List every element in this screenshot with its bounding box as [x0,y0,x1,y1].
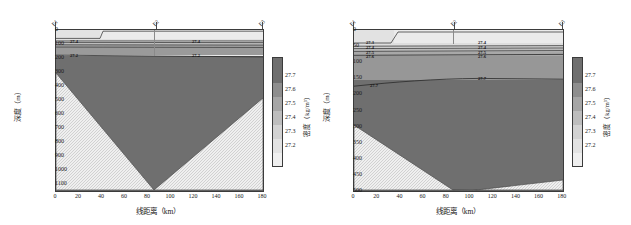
station-line-e2-left [154,30,155,56]
x-tick-label: 0 [352,190,355,199]
cbar-tick-label: 27.5 [581,100,596,106]
cbar-segment [573,153,582,166]
x-tick-label: 40 [396,190,402,199]
x-tick-label: 0 [54,190,57,199]
x-tick-label: 20 [373,190,379,199]
x-tick-label: 100 [166,190,175,199]
y-tick-label: 350 [353,139,356,145]
x-tick-label: 140 [212,190,221,199]
x-tick-label: 60 [121,190,127,199]
seafloor-hatch-right [354,30,563,191]
cbar-segment [273,58,282,83]
x-tick-label: 160 [534,190,543,199]
panel-right: E1 E2 E3 [316,0,631,225]
cbar-segment [573,58,582,83]
y-tick-label: 200 [353,90,356,96]
y-tick-label: 300 [55,68,58,74]
y-tick-label: 700 [55,124,58,130]
y-tick-label: 0 [353,26,356,32]
station-tick-e3 [262,22,263,29]
x-axis-title: 线距离（km） [408,205,508,216]
station-tick-e3 [562,22,563,29]
y-tick-label: 300 [353,123,356,129]
cbar-tick-label: 27.4 [581,114,596,120]
y-tick-label: 600 [55,110,58,116]
contour-label: 27.2 [192,54,200,59]
x-tick-label: 120 [488,190,497,199]
x-tick-label: 20 [75,190,81,199]
y-tick-label: 450 [353,171,356,177]
station-tick-e2 [454,22,455,29]
cbar-tick-label: 27.7 [281,72,296,78]
contour-label: 27.2 [70,54,78,59]
contour-label: 27.4 [192,39,200,44]
y-tick-label: 1000 [55,166,58,172]
y-tick-label: 200 [55,54,58,60]
station-tick-e2 [156,22,157,29]
seafloor-hatch-left [56,30,263,191]
x-tick-label: 160 [235,190,244,199]
contour-label: 27.4 [70,39,78,44]
y-axis-title: 深度（m） [12,82,22,128]
y-tick-label: 500 [55,96,58,102]
plot-area-right: 27.3 27.4 27.5 27.6 27.4 27.4 27.5 27.6 … [353,29,564,192]
panel-left: E1 E2 E3 [0,0,315,225]
station-line-e2-right [453,30,454,44]
density-section-figure: E1 E2 E3 [0,0,631,225]
colorbar-title: 密度（kg/m³） [601,85,611,145]
y-tick-label: 900 [55,152,58,158]
x-tick-label: 60 [420,190,426,199]
x-tick-label: 40 [98,190,104,199]
x-axis-title: 线距离（km） [108,205,208,216]
cbar-tick-label: 27.3 [581,128,596,134]
y-tick-label: 400 [55,82,58,88]
x-tick-label: 100 [465,190,474,199]
cbar-tick-label: 27.7 [581,72,596,78]
y-tick-label: 250 [353,107,356,113]
x-tick-label: 120 [189,190,198,199]
cbar-tick-label: 27.5 [281,100,296,106]
y-tick-label: 1100 [55,180,58,186]
x-tick-label: 140 [511,190,520,199]
y-tick-label: 100 [55,40,58,46]
colorbar-title: 密度（kg/m³） [301,85,311,145]
y-tick-label: 800 [55,138,58,144]
contour-label: 27.6 [478,55,486,60]
cbar-tick-label: 27.6 [581,86,596,92]
y-tick-label: 0 [55,26,58,32]
cbar-tick-label: 27.6 [281,86,296,92]
cbar-tick-label: 27.2 [581,142,596,148]
y-axis-title: 深度（m） [321,82,331,128]
y-tick-label: 150 [353,74,356,80]
contour-label: 27.7 [370,84,378,89]
y-tick-label: 100 [353,58,356,64]
cbar-segment [273,153,282,166]
cbar-tick-label: 27.2 [281,142,296,148]
y-tick-label: 400 [353,155,356,161]
y-tick-label: 50 [353,42,356,48]
x-tick-label: 180 [557,190,566,199]
contour-label: 27.6 [366,55,374,60]
cbar-tick-label: 27.3 [281,128,296,134]
x-tick-label: 80 [443,190,449,199]
contour-label: 27.7 [478,77,486,82]
cbar-tick-label: 27.4 [281,114,296,120]
x-tick-label: 180 [258,190,267,199]
x-tick-label: 80 [144,190,150,199]
plot-area-left: 27.4 27.4 27.2 27.2 [55,29,264,192]
